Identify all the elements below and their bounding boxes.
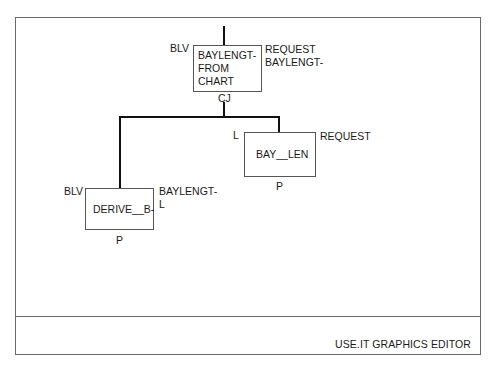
node-top-left-label: BLV [170, 42, 189, 54]
editor-title: USE.IT GRAPHICS EDITOR [335, 338, 471, 350]
connector-left-branch [119, 116, 121, 188]
node-top-line-2: FROM [198, 62, 229, 75]
node-left-left-label: BLV [64, 185, 83, 197]
status-divider [15, 316, 481, 317]
connector-top-incoming [223, 26, 225, 45]
node-top-line-1: BAYLENGT- [198, 49, 256, 62]
node-left-right-label-2: L [159, 198, 165, 210]
node-right-left-label: L [233, 129, 239, 141]
node-top-right-label-1: REQUEST [265, 43, 316, 55]
node-top-bottom-label: CJ [218, 92, 231, 104]
connector-right-branch [278, 116, 280, 132]
node-right-bottom-label: P [276, 180, 283, 192]
node-top-right-label-2: BAYLENGT- [265, 56, 323, 68]
node-top-line-3: CHART [198, 75, 234, 88]
node-left-right-label-1: BAYLENGT- [159, 185, 217, 197]
node-right-line-1: BAY__LEN [256, 148, 308, 161]
node-right-right-label-1: REQUEST [320, 130, 371, 142]
node-left-line-1: DERIVE__B- [93, 203, 154, 216]
connector-horizontal [119, 116, 280, 118]
node-left-bottom-label: P [116, 234, 123, 246]
